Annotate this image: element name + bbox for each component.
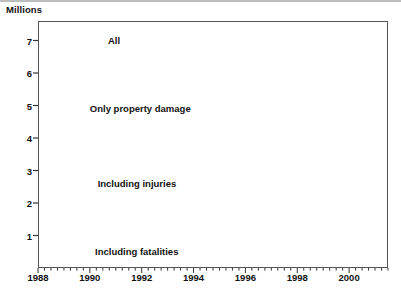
x-tick-label-2000: 2000 [329,272,369,283]
y-tick-label-4: 4 [6,133,32,144]
y-tick-label-6: 6 [6,68,32,79]
y-tick-label-7: 7 [6,35,32,46]
plot-area [38,21,388,268]
x-tick-label-1998: 1998 [277,272,317,283]
x-tick-label-1996: 1996 [225,272,265,283]
x-tick-label-1994: 1994 [174,272,214,283]
y-tick-label-1: 1 [6,230,32,241]
chart-figure: Millions 1234567198819901992199419961998… [0,0,401,294]
y-tick-label-2: 2 [6,198,32,209]
x-tick-label-1990: 1990 [70,272,110,283]
y-axis-units-label: Millions [6,4,42,15]
series-label-including-fatalities: Including fatalities [95,246,178,257]
series-label-all: All [108,35,120,46]
y-tick-label-5: 5 [6,100,32,111]
series-label-including-injuries: Including injuries [98,178,177,189]
x-tick-label-1992: 1992 [122,272,162,283]
top-rule [0,0,401,2]
y-tick-label-3: 3 [6,165,32,176]
x-tick-label-1988: 1988 [18,272,58,283]
plot-frame [38,21,388,268]
series-label-only-property-damage: Only property damage [90,103,191,114]
